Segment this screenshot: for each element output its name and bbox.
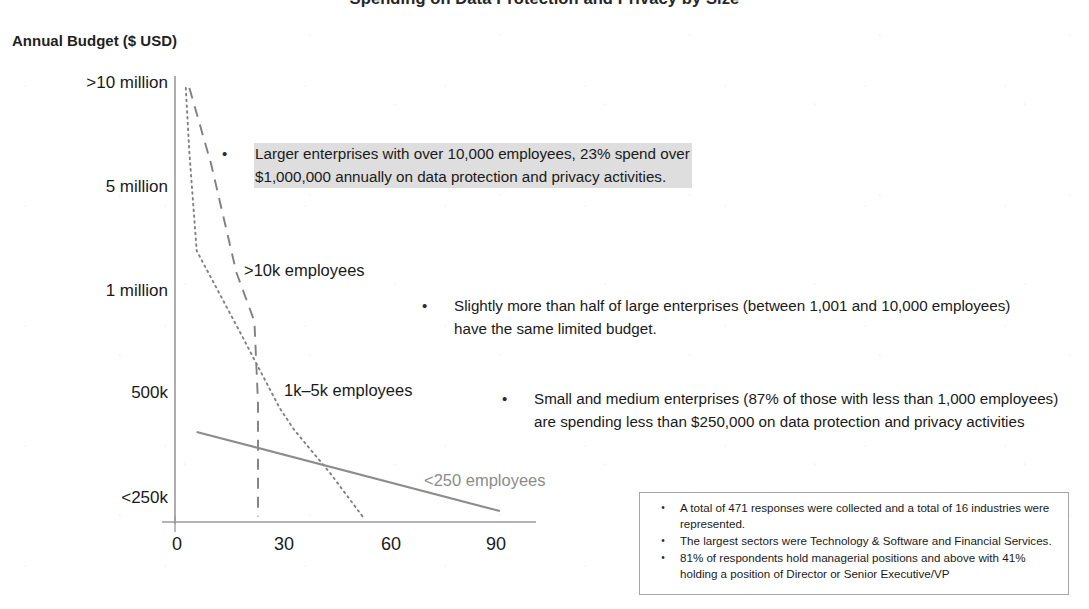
footnote-text: The largest sectors were Technology & So… bbox=[680, 533, 1052, 549]
footnote-item: • A total of 471 responses were collecte… bbox=[646, 500, 1060, 532]
bullet-icon: • bbox=[646, 550, 680, 566]
series-label-250-employees: <250 employees bbox=[424, 471, 546, 490]
x-tick-label: 60 bbox=[361, 534, 421, 555]
footnote-text: 81% of respondents hold managerial posit… bbox=[680, 550, 1060, 582]
callout-large-enterprises: • Larger enterprises with over 10,000 em… bbox=[222, 143, 692, 188]
bullet-icon: • bbox=[646, 500, 680, 516]
y-axis-tick-labels: >10 million 5 million 1 million 500k <25… bbox=[0, 0, 168, 609]
callout-text: Small and medium enterprises (87% of tho… bbox=[534, 388, 1062, 433]
callout-smb-enterprises: • Small and medium enterprises (87% of t… bbox=[502, 388, 1062, 433]
y-tick-label: 1 million bbox=[106, 281, 168, 301]
y-tick-label: 500k bbox=[131, 383, 168, 403]
bullet-icon: • bbox=[502, 388, 534, 410]
bullet-icon: • bbox=[422, 295, 454, 317]
series-label-10k-employees: >10k employees bbox=[244, 261, 365, 280]
series-label-1k-5k-employees: 1k–5k employees bbox=[284, 381, 412, 400]
callout-mid-enterprises: • Slightly more than half of large enter… bbox=[422, 295, 1012, 340]
footnote-item: • 81% of respondents hold managerial pos… bbox=[646, 550, 1060, 582]
footnote-text: A total of 471 responses were collected … bbox=[680, 500, 1060, 532]
x-tick-label: 30 bbox=[254, 534, 314, 555]
y-tick-label: 5 million bbox=[106, 177, 168, 197]
callout-text: Larger enterprises with over 10,000 empl… bbox=[254, 143, 692, 188]
x-tick-label: 90 bbox=[466, 534, 526, 555]
y-tick-label: <250k bbox=[121, 488, 168, 508]
footnote-item: • The largest sectors were Technology & … bbox=[646, 533, 1060, 549]
y-tick-label: >10 million bbox=[86, 73, 168, 93]
x-tick-label: 0 bbox=[147, 534, 207, 555]
methodology-note-box: • A total of 471 responses were collecte… bbox=[639, 492, 1069, 595]
bullet-icon: • bbox=[646, 533, 680, 549]
callout-text: Slightly more than half of large enterpr… bbox=[454, 295, 1012, 340]
bullet-icon: • bbox=[222, 143, 254, 165]
